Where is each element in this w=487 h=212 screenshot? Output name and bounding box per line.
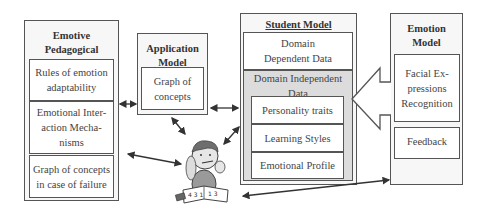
student-figure-icon: 4 3 1 1 3 [175,141,228,203]
arrow-app-figure [172,118,185,134]
big-arrow-emotion-to-student [352,68,391,129]
svg-text:1 3: 1 3 [208,190,218,197]
arrow-student-figure [224,127,239,144]
connectors: 4 3 1 1 3 [0,0,487,212]
arrow-epm-figure [128,154,181,164]
arrow-figure-emotion [243,180,389,196]
svg-text:4 3 1: 4 3 1 [188,191,203,198]
